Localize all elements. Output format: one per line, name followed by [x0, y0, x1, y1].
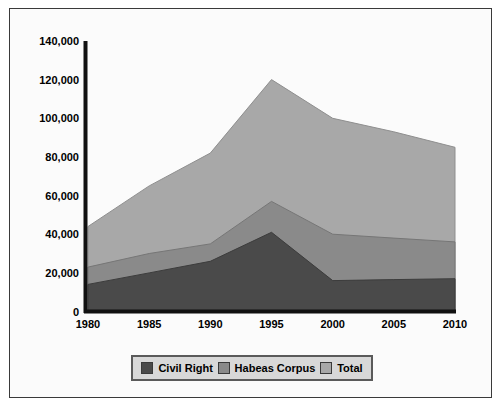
- legend-swatch-civil-right: [141, 362, 153, 374]
- legend-label-habeas-corpus: Habeas Corpus: [235, 363, 316, 374]
- x-tick-label: 1990: [198, 318, 222, 330]
- y-tick-label: 140,000: [39, 35, 79, 47]
- x-tick-label: 1985: [137, 318, 161, 330]
- legend-swatch-total: [320, 362, 332, 374]
- x-tick-label: 2005: [382, 318, 406, 330]
- x-tick-label: 2010: [443, 318, 467, 330]
- legend-item-total: Total: [320, 362, 362, 374]
- plot-area: 020,00040,00060,00080,000100,000120,0001…: [0, 0, 501, 407]
- x-axis-tick-labels: 1980198519901995200020052010: [76, 318, 467, 330]
- legend-swatch-habeas-corpus: [218, 362, 230, 374]
- legend-item-civil-right: Civil Right: [141, 362, 212, 374]
- x-tick-label: 2000: [320, 318, 344, 330]
- x-tick-label: 1995: [259, 318, 283, 330]
- y-tick-label: 60,000: [45, 190, 79, 202]
- chart-figure: 020,00040,00060,00080,000100,000120,0001…: [0, 0, 501, 407]
- y-tick-label: 120,000: [39, 74, 79, 86]
- y-tick-label: 100,000: [39, 112, 79, 124]
- y-tick-label: 40,000: [45, 228, 79, 240]
- legend-label-civil-right: Civil Right: [158, 363, 212, 374]
- legend-item-habeas-corpus: Habeas Corpus: [218, 362, 316, 374]
- x-tick-label: 1980: [76, 318, 100, 330]
- legend-label-total: Total: [337, 363, 362, 374]
- area-chart-svg: 020,00040,00060,00080,000100,000120,0001…: [0, 0, 501, 407]
- y-tick-label: 20,000: [45, 267, 79, 279]
- y-tick-label: 0: [73, 306, 79, 318]
- y-tick-label: 80,000: [45, 151, 79, 163]
- chart-legend: Civil Right Habeas Corpus Total: [131, 355, 373, 381]
- y-axis-tick-labels: 020,00040,00060,00080,000100,000120,0001…: [39, 35, 79, 318]
